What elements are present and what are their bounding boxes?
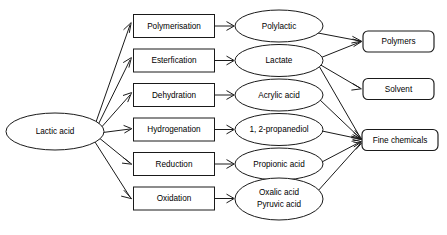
node-fine-chemicals-label: Fine chemicals (373, 136, 428, 145)
node-lactate-label: Lactate (266, 56, 293, 65)
node-fine-chemicals[interactable]: Fine chemicals (362, 130, 438, 151)
node-pyruvic-acid-label: Pyruvic acid (257, 200, 302, 209)
edge-propanediol-to-fine-chemicals (322, 131, 362, 141)
edge-polylactic-to-polymers (318, 33, 362, 43)
node-hydrogenation[interactable]: Hydrogenation (134, 118, 215, 141)
node-propanediol-label: 1, 2-propanediol (249, 125, 308, 134)
node-lactic-acid-label: Lactic acid (36, 127, 75, 136)
edge-lactic-acid-to-esterfication (97, 58, 131, 127)
node-polymerisation[interactable]: Polymerisation (134, 15, 215, 38)
node-acrylic-acid[interactable]: Acrylic acid (235, 79, 323, 111)
edge-lactic-acid-to-reduction (98, 137, 132, 164)
edge-group-processes-to-products (215, 22, 234, 203)
edge-lactic-acid-to-polymerisation (96, 23, 131, 122)
node-polylactic-label: Polylactic (262, 22, 297, 31)
node-reduction-label: Reduction (156, 160, 193, 169)
edge-polymerisation-to-polylactic (215, 22, 234, 31)
node-hydrogenation-label: Hydrogenation (147, 125, 201, 134)
node-oxalic-acid-label: Oxalic acid (259, 188, 299, 197)
node-propanediol[interactable]: 1, 2-propanediol (235, 114, 323, 146)
node-oxalic-pyruvic[interactable]: Oxalic acid Pyruvic acid (235, 178, 323, 220)
node-lactic-acid[interactable]: Lactic acid (6, 113, 104, 150)
lactic-acid-flow-diagram: Lactic acid Polymerisation Esterfication… (0, 0, 447, 235)
edge-group-products-to-outcomes (317, 33, 362, 192)
node-polymers[interactable]: Polymers (363, 31, 434, 52)
node-oxidation[interactable]: Oxidation (134, 187, 215, 210)
edge-dehydration-to-acrylic-acid (215, 91, 234, 100)
node-dehydration-label: Dehydration (152, 91, 197, 100)
edge-oxalic-pyruvic-to-fine-chemicals (317, 142, 361, 192)
node-polymerisation-label: Polymerisation (147, 22, 201, 31)
node-oxidation-label: Oxidation (157, 194, 192, 203)
node-acrylic-acid-label: Acrylic acid (258, 91, 300, 100)
node-polylactic[interactable]: Polylactic (235, 10, 323, 42)
edge-oxidation-to-oxalic-pyruvic (215, 194, 234, 203)
edge-hydrogenation-to-propanediol (215, 125, 234, 134)
node-reduction[interactable]: Reduction (134, 153, 215, 176)
node-esterfication-label: Esterfication (151, 56, 196, 65)
edge-reduction-to-propionic-acid (215, 160, 234, 169)
edge-lactic-acid-to-oxidation (95, 142, 132, 199)
node-solvent-label: Solvent (385, 85, 413, 94)
diagram-canvas: Lactic acid Polymerisation Esterfication… (0, 0, 447, 235)
node-solvent[interactable]: Solvent (363, 79, 434, 100)
node-propionic-acid-label: Propionic acid (253, 160, 305, 169)
edge-acrylic-acid-to-fine-chemicals (319, 99, 362, 139)
node-esterfication[interactable]: Esterfication (134, 49, 215, 72)
edge-group-source-to-processes (95, 23, 132, 199)
node-dehydration[interactable]: Dehydration (134, 84, 215, 107)
edge-propionic-acid-to-fine-chemicals (320, 140, 362, 164)
node-polymers-label: Polymers (381, 37, 415, 46)
node-propionic-acid[interactable]: Propionic acid (235, 148, 323, 180)
node-lactate[interactable]: Lactate (235, 45, 323, 77)
edge-esterfication-to-lactate (215, 56, 234, 65)
